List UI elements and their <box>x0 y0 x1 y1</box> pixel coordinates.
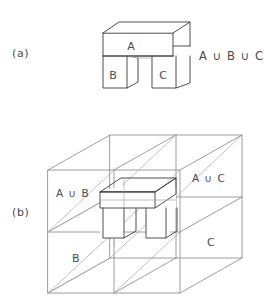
arch-a-slab-front-face-fill <box>103 33 173 56</box>
big-box-internal-divisions <box>48 135 242 293</box>
pane-diagonal-lower-right <box>114 232 180 293</box>
arch-a-label-b: B <box>109 69 117 82</box>
panel-a-expression: A ∪ B ∪ C <box>199 49 264 63</box>
panel-b-label-b: B <box>72 252 80 265</box>
pane-diagonals <box>48 135 242 293</box>
inner-arch-leg-left-right-face <box>124 208 136 238</box>
divider-vertical-bottom <box>114 258 176 293</box>
big-box-edge-top-right <box>180 135 242 170</box>
inner-arch-leg-left-mask <box>100 208 124 238</box>
panel-b-label-a-union-c: A ∪ C <box>192 172 226 184</box>
divider-horizontal-right <box>180 197 242 232</box>
big-box-outline <box>48 135 242 293</box>
figure-root: (a) <box>0 0 264 307</box>
arch-a-label-c: C <box>159 69 167 82</box>
big-box-edge-bottom-right <box>180 258 242 293</box>
panel-b-label-c: C <box>207 236 215 249</box>
arch-a-slab-right-face-fill <box>173 33 190 56</box>
inner-arch-solid <box>100 176 177 246</box>
panel-b-group: (b) <box>12 135 242 293</box>
big-box-edge-top-left <box>48 135 110 170</box>
arch-a-slab-top-face-fill <box>119 22 190 33</box>
panel-a-label: (a) <box>12 47 29 60</box>
divider-vertical-top <box>114 135 176 170</box>
arch-a-leg-c-right-face-fill <box>176 56 190 88</box>
arch-a-label-a: A <box>127 40 135 53</box>
pane-diagonal-lower-left <box>48 232 114 293</box>
panel-b-label: (b) <box>12 206 29 219</box>
panel-a-group: (a) <box>12 22 264 88</box>
set-union-figure: (a) <box>0 0 264 307</box>
arch-solid-a: A B C <box>103 22 190 88</box>
pane-diagonal-back-upper-right <box>176 135 242 197</box>
panel-b-label-a-union-b: A ∪ B <box>56 187 90 199</box>
